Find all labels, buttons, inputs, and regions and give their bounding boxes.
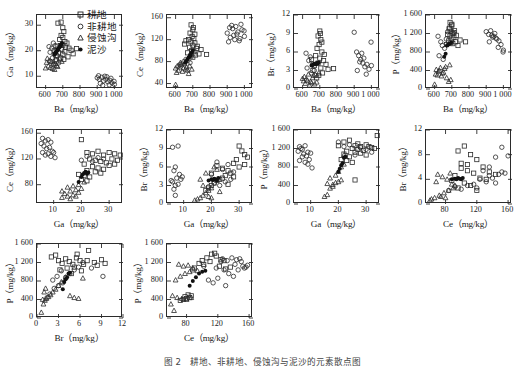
series-2 [39,275,85,315]
xtick-label: 1 000 [482,90,522,99]
yaxis-label: Ce（mg/kg） [2,121,16,213]
legend-label: 侵蚀沟 [87,32,117,44]
plot-area-br-vs-ba [293,14,379,88]
xtick-label: 1 000 [350,90,390,99]
legend-label: 泥沙 [87,44,107,56]
triangle-marker-icon [76,34,85,41]
figure-caption: 图 2 耕地、非耕地、侵蚀沟与泥沙的元素散点图 [0,355,525,367]
series-0 [52,20,79,63]
series-2 [432,62,453,86]
xaxis-label: Ba（mg/kg） [9,101,149,115]
series-2 [428,171,458,203]
yaxis-label: Ce（mg/kg） [132,6,146,98]
plot-area-p-vs-ga [293,129,379,203]
data-layer-ce-vs-ba [167,15,253,89]
series-3 [450,176,465,181]
data-layer-p-vs-ba [426,15,512,89]
xaxis-label: Br（mg/kg） [9,330,149,344]
yaxis-label: Br（mg/kg） [395,121,409,213]
legend-item-2: 侵蚀沟 [76,32,117,44]
data-layer-ce-vs-ga [37,130,123,204]
series-0 [49,248,107,275]
circle-marker-icon [76,23,85,30]
xtick-label: 160 [487,205,525,214]
series-0 [178,251,232,302]
series-1 [202,256,250,288]
series-2 [169,262,200,313]
legend: 耕地 非耕地 侵蚀沟 泥沙 [76,9,117,55]
yaxis-label: P（mg/kg） [130,235,144,327]
legend-label: 耕地 [87,9,107,21]
legend-item-3: 泥沙 [76,44,117,56]
yaxis-label: P（mg/kg） [388,6,402,98]
plot-area-ce-vs-ga [36,129,122,203]
square-marker-icon [76,11,85,18]
data-layer-p-vs-ce [167,244,253,318]
series-2 [192,165,222,203]
xaxis-label: Ce（mg/kg） [139,330,279,344]
xaxis-label: Ce（mg/kg） [398,216,525,230]
plot-area-br-vs-ga [166,129,252,203]
legend-item-1: 非耕地 [76,21,117,33]
plot-area-br-vs-ce [425,129,511,203]
data-layer-p-vs-ga [294,130,380,204]
yaxis-label: P（mg/kg） [256,121,270,213]
yaxis-label: Br（mg/kg） [136,121,150,213]
xaxis-label: Ga（mg/kg） [139,216,279,230]
data-layer-p-vs-br [37,244,123,318]
xtick-label: 1 000 [223,90,263,99]
filled-circle-marker-icon [76,46,85,53]
xaxis-label: Ga（mg/kg） [9,216,149,230]
plot-area-p-vs-br [36,243,122,317]
yaxis-label: P（mg/kg） [2,235,16,327]
plot-area-ce-vs-ba [166,14,252,88]
data-layer-br-vs-ba [294,15,380,89]
legend-label: 非耕地 [87,21,117,33]
xaxis-label: Ba（mg/kg） [266,101,406,115]
plot-area-p-vs-ba [425,14,511,88]
xtick-label: 160 [228,319,268,328]
xaxis-label: Ga（mg/kg） [266,216,406,230]
xaxis-label: Ba（mg/kg） [139,101,279,115]
legend-item-0: 耕地 [76,9,117,21]
series-2 [60,180,87,201]
xtick-label: 30 [345,205,385,214]
xtick-label: 30 [88,205,128,214]
data-layer-br-vs-ce [426,130,512,204]
series-3 [207,176,221,182]
yaxis-label: Br（mg/kg） [263,6,277,98]
data-layer-br-vs-ga [167,130,253,204]
series-3 [61,271,72,292]
yaxis-label: Ga（mg/kg） [2,6,16,98]
xtick-label: 1 000 [93,90,133,99]
xtick-label: 30 [218,205,258,214]
series-0 [182,23,208,60]
plot-area-p-vs-ce [166,243,252,317]
xaxis-label: Ba（mg/kg） [398,101,525,115]
series-2 [322,152,346,198]
